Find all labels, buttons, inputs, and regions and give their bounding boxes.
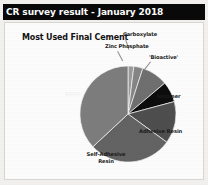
pie-label-adhesive-resin: Adhesive Resin (139, 128, 182, 135)
pie-slice-group (80, 66, 176, 162)
slide-header-bar: CR survey result - January 2018 (3, 4, 205, 20)
pie-label-rmgi: RMGI (65, 91, 80, 98)
pie-label-bioactive: 'Bioactive' (149, 54, 178, 61)
pie-label-carboxylate: Carboxylate (123, 31, 157, 38)
chart-title: Most Used Final Cement (22, 33, 128, 42)
slide-body: Most Used Final Cement Carboxylate Zinc … (4, 22, 204, 180)
pie-label-ionomer: Ionomer (157, 93, 181, 100)
slide-title: CR survey result - January 2018 (6, 6, 163, 18)
pie-label-self-adhesive-resin-line2: Resin (75, 158, 137, 165)
pie-chart (79, 65, 177, 163)
pie-chart-svg (79, 65, 177, 163)
pie-label-zinc-phosphate: Zinc Phosphate (105, 43, 149, 50)
pie-label-self-adhesive-resin: Self-Adhesive Resin (75, 151, 137, 164)
survey-slide: CR survey result - January 2018 Most Use… (0, 0, 208, 185)
leader-line-zinc-phosphate (117, 51, 123, 61)
